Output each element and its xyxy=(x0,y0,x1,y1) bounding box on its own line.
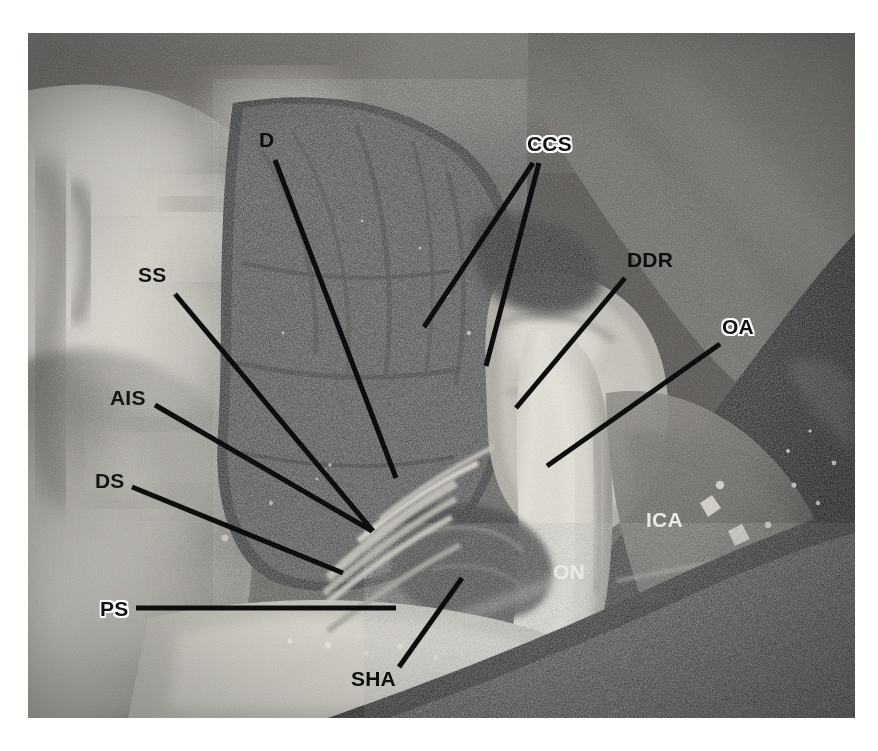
anatomical-photograph xyxy=(28,33,855,718)
label-sha: SHA xyxy=(351,668,396,689)
label-ddr: DDR xyxy=(627,249,673,270)
label-ps: PS xyxy=(100,598,128,619)
figure-root: D CCS SS DDR OA AIS DS ICA ON PS SHA xyxy=(0,0,878,751)
label-d: D xyxy=(259,129,274,150)
label-oa: OA xyxy=(722,316,754,337)
label-ica: ICA xyxy=(646,509,683,530)
label-ss: SS xyxy=(138,264,166,285)
label-ais: AIS xyxy=(110,387,146,408)
label-ccs: CCS xyxy=(527,133,572,154)
photograph-canvas xyxy=(28,33,855,718)
label-ds: DS xyxy=(95,470,125,491)
label-on: ON xyxy=(553,561,585,582)
